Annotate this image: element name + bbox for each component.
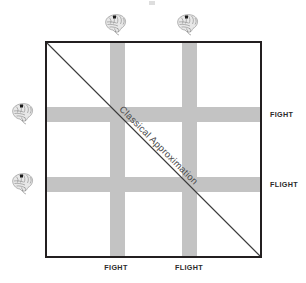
- plot-frame: Classical Approximation: [45, 41, 262, 258]
- image-artifact-speck: [149, 1, 155, 5]
- classical-approximation-diagonal: [47, 43, 260, 256]
- axis-label-bottom-fight: FIGHT: [92, 263, 140, 272]
- brain-icon-left-flight: [10, 171, 35, 195]
- axis-label-bottom-flight: FLIGHT: [163, 263, 215, 272]
- axis-label-right-fight: FIGHT: [270, 110, 293, 119]
- diagram-canvas: Classical Approximation FIGHT FLIGHT FIG…: [0, 0, 306, 283]
- axis-label-right-flight: FLIGHT: [270, 180, 298, 189]
- brain-icon-top-flight: [175, 12, 200, 36]
- brain-icon-left-fight: [10, 101, 35, 125]
- brain-icon-top-fight: [103, 12, 128, 36]
